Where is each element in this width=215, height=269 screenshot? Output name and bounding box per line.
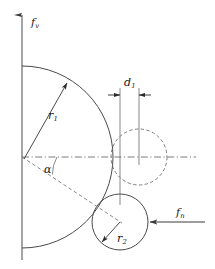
label-radius-small: r2: [117, 233, 127, 244]
label-radius-large: r1: [48, 110, 58, 121]
label-normal-force: fn: [176, 207, 184, 218]
label-vertical-force: fv: [31, 17, 39, 28]
angle-arc: [52, 157, 57, 175]
diagram-canvas: [0, 0, 215, 269]
label-dimension-d1: d1: [124, 77, 135, 88]
radius-leader-r1: [24, 83, 67, 159]
engineering-diagram: fv fn r1 r2 d1 α: [0, 0, 215, 269]
label-angle-alpha: α: [44, 164, 51, 175]
